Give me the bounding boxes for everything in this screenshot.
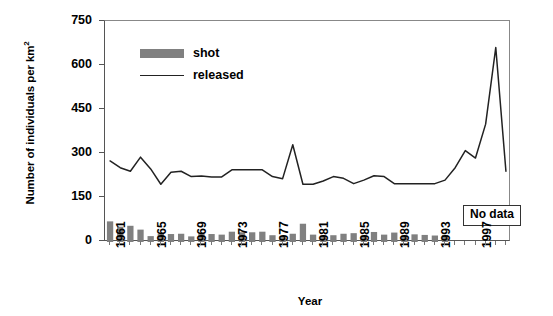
bar-1992: [422, 235, 428, 242]
x-tick-mark-1998: [485, 241, 486, 245]
x-tick-mark-1999: [495, 241, 496, 245]
legend-line-swatch-icon: [140, 75, 184, 76]
x-tick-mark-1976: [261, 241, 262, 245]
x-tick-mark-1996: [464, 241, 465, 245]
x-tick-mark-1977: [272, 241, 273, 245]
bar-1980: [300, 224, 306, 242]
x-tick-mark-1963: [129, 241, 130, 245]
x-tick-mark-1975: [251, 241, 252, 245]
x-tick-mark-1992: [424, 241, 425, 245]
legend-label-released: released: [193, 69, 244, 82]
y-tick-label-150: 150: [46, 190, 92, 203]
bar-1968: [178, 234, 184, 242]
bar-1984: [340, 234, 346, 242]
bar-1976: [259, 232, 265, 242]
x-tick-label-1993: 1993: [439, 221, 453, 248]
y-tick-label-750: 750: [46, 14, 92, 27]
x-tick-mark-1966: [160, 241, 161, 245]
x-tick-mark-1972: [221, 241, 222, 245]
x-tick-mark-1968: [180, 241, 181, 245]
y-tick-label-0: 0: [46, 234, 92, 247]
x-tick-label-1981: 1981: [317, 221, 331, 248]
legend-bar-swatch-icon: [140, 49, 184, 58]
x-tick-label-1989: 1989: [398, 221, 412, 248]
x-tick-mark-1980: [302, 241, 303, 245]
x-tick-mark-1978: [282, 241, 283, 245]
x-tick-mark-1969: [190, 241, 191, 245]
x-tick-label-1973: 1973: [236, 221, 250, 248]
x-tick-label-1969: 1969: [195, 221, 209, 248]
y-tick-label-300: 300: [46, 146, 92, 159]
x-tick-mark-1970: [200, 241, 201, 245]
x-tick-mark-1981: [312, 241, 313, 245]
x-tick-mark-1989: [393, 241, 394, 245]
x-tick-mark-1985: [353, 241, 354, 245]
x-tick-label-1965: 1965: [155, 221, 169, 248]
y-tick-label-450: 450: [46, 102, 92, 115]
y-axis-title-text: Number of individuals per km: [24, 46, 36, 205]
chart-legend: shot released: [140, 44, 244, 88]
x-tick-mark-1971: [211, 241, 212, 245]
x-tick-mark-1987: [373, 241, 374, 245]
legend-item-released: released: [140, 66, 244, 84]
x-tick-mark-1984: [343, 241, 344, 245]
x-tick-mark-1994: [444, 241, 445, 245]
bar-1964: [137, 230, 143, 242]
x-tick-label-1997: 1997: [480, 221, 494, 248]
x-tick-mark-1997: [475, 241, 476, 245]
x-tick-mark-1988: [383, 241, 384, 245]
x-tick-mark-1991: [414, 241, 415, 245]
y-axis-title: Number of individuals per km2: [22, 0, 36, 248]
x-tick-mark-1986: [363, 241, 364, 245]
x-tick-mark-1993: [434, 241, 435, 245]
x-tick-label-1977: 1977: [277, 221, 291, 248]
x-tick-mark-1964: [140, 241, 141, 245]
x-tick-label-1961: 1961: [114, 221, 128, 248]
y-tick-label-600: 600: [46, 58, 92, 71]
bar-1963: [127, 226, 133, 242]
x-tick-mark-1983: [332, 241, 333, 245]
legend-label-shot: shot: [193, 47, 219, 60]
x-tick-mark-1995: [454, 241, 455, 245]
x-axis-title: Year: [110, 295, 510, 307]
x-tick-mark-1982: [322, 241, 323, 245]
x-tick-mark-2000: [505, 241, 506, 245]
x-tick-mark-1961: [109, 241, 110, 245]
x-tick-label-1985: 1985: [358, 221, 372, 248]
bar-1961: [107, 221, 113, 242]
x-tick-mark-1973: [231, 241, 232, 245]
chart-figure: Number of individuals per km2 750 600 45…: [0, 0, 553, 316]
x-tick-mark-1965: [150, 241, 151, 245]
x-tick-mark-1967: [170, 241, 171, 245]
y-axis-title-superscript: 2: [22, 41, 31, 45]
x-tick-mark-1979: [292, 241, 293, 245]
x-tick-mark-1962: [119, 241, 120, 245]
legend-item-shot: shot: [140, 44, 244, 62]
bar-1988: [381, 235, 387, 242]
x-tick-mark-1974: [241, 241, 242, 245]
x-tick-mark-1990: [403, 241, 404, 245]
bar-1972: [219, 235, 225, 242]
